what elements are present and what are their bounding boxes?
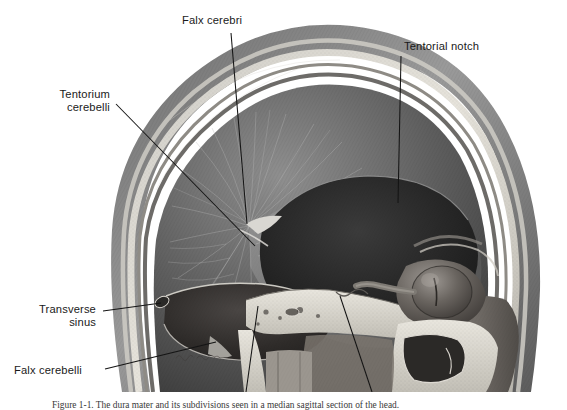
anatomical-illustration: [0, 0, 567, 392]
label-transverse-sinus: Transverse sinus: [14, 303, 96, 329]
figure-page: Falx cerebri Tentorial notch Tentorium c…: [0, 0, 567, 410]
label-falx-cerebelli: Falx cerebelli: [14, 364, 82, 377]
label-tentorial-notch: Tentorial notch: [404, 40, 479, 53]
label-falx-cerebri: Falx cerebri: [182, 14, 242, 27]
figure-caption: Figure 1-1. The dura mater and its subdi…: [0, 399, 567, 410]
figure-caption-text: Figure 1-1. The dura mater and its subdi…: [0, 399, 567, 410]
label-tentorium-cerebelli: Tentorium cerebelli: [28, 88, 110, 114]
basiocciput-block: [266, 350, 312, 392]
